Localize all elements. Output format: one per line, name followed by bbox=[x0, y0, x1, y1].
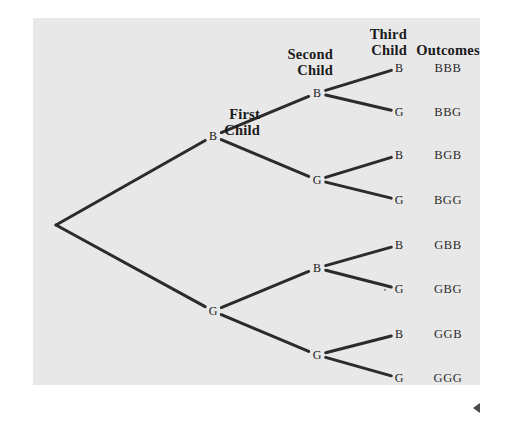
left-pointing-triangle-icon bbox=[473, 403, 480, 413]
node-label-gb: B bbox=[309, 262, 325, 274]
print-speck bbox=[384, 289, 386, 291]
outcome-label-bgb: BGB bbox=[412, 149, 484, 162]
node-label-gbg: G bbox=[391, 283, 407, 295]
outcome-label-gbb: GBB bbox=[412, 239, 484, 252]
outcome-label-bbb: BBB bbox=[412, 62, 484, 75]
node-label-ggg: G bbox=[391, 372, 407, 384]
outcome-label-gbg: GBG bbox=[412, 283, 484, 296]
node-label-bbg: G bbox=[391, 106, 407, 118]
node-label-bb: B bbox=[309, 87, 325, 99]
node-label-gg: G bbox=[309, 349, 325, 361]
node-label-gbb: B bbox=[391, 239, 407, 251]
node-label-ggb: B bbox=[391, 328, 407, 340]
outcome-label-ggb: GGB bbox=[412, 328, 484, 341]
node-label-b: B bbox=[205, 130, 221, 142]
outcome-label-bgg: BGG bbox=[412, 194, 484, 207]
header-second-child: Second Child bbox=[241, 46, 333, 78]
node-label-bg: G bbox=[309, 174, 325, 186]
tree-diagram-figure: First Child Second Child Third Child Out… bbox=[0, 0, 507, 430]
node-label-bgb: B bbox=[391, 149, 407, 161]
outcome-label-bbg: BBG bbox=[412, 106, 484, 119]
header-outcomes: Outcomes bbox=[412, 42, 484, 58]
node-label-bgg: G bbox=[391, 194, 407, 206]
header-third-child: Third Child bbox=[341, 26, 407, 58]
node-label-g: G bbox=[205, 305, 221, 317]
outcome-label-ggg: GGG bbox=[412, 372, 484, 385]
node-label-bbb: B bbox=[391, 62, 407, 74]
